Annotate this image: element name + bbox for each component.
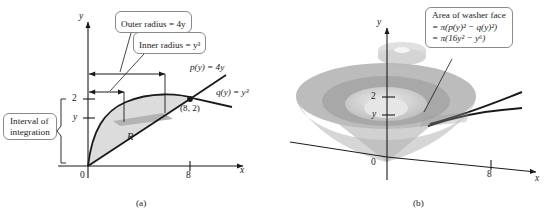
interval-line-2: integration [10,127,50,138]
callout-interval-of-integration: Interval of integration [3,113,57,140]
panel-caption-a: (a) [136,198,146,208]
outer-radius-leader [120,33,131,72]
callout-area-of-washer-face: Area of washer face = π(p(y)² − q(y)²) =… [425,7,513,48]
figure-washer-method: Outer radius = 4y Inner radius = y³ Inte… [0,0,556,217]
panel-caption-b: (b) [413,198,424,208]
y-tick-label-2-a: 2 [72,93,77,103]
callout-inner-radius: Inner radius = y³ [133,32,206,54]
y-axis-label-b: y [377,17,381,27]
callout-outer-radius-text: Outer radius = 4y [121,19,186,29]
interval-brace [57,99,66,163]
origin-label-a: 0 [80,170,85,180]
x-axis-b [387,157,536,172]
representative-washer [378,42,426,65]
x-axis-label-b: x [535,173,539,183]
y-axis-label-a: y [79,11,83,21]
washer-formula-line-1: Area of washer face [432,10,506,22]
callout-inner-radius-text: Inner radius = y³ [139,40,200,50]
label-point-8-2: (8, 2) [180,103,200,113]
y-tick-label-y-a: y [73,112,77,122]
panel-b [290,28,536,180]
y-tick-label-2-b: 2 [371,91,376,101]
x-axis-label-a: x [240,165,244,175]
callout-outer-radius: Outer radius = 4y [115,11,192,33]
origin-label-b: 0 [371,157,376,167]
x-tick-label-8-a: 8 [186,170,191,180]
y-tick-label-y-b: y [372,109,376,119]
label-p-of-y: p(y) = 4y [190,62,224,72]
label-q-of-y: q(y) = y³ [216,87,248,97]
washer-formula-line-3: = π(16y² − y⁶) [432,33,506,45]
washer-formula-line-2: = π(p(y)² − q(y)²) [432,22,506,34]
inner-radius-leader [110,54,144,91]
intersection-point-a [187,96,193,102]
interval-line-1: Interval of [10,116,50,127]
x-tick-label-8-b: 8 [487,169,492,179]
label-region-R: R [127,131,133,142]
